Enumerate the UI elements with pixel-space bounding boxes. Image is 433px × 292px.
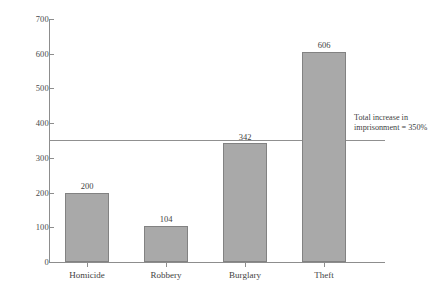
y-tick-mark [49,88,54,89]
y-tick-mark [49,227,54,228]
y-tick-label: 300 [7,154,49,163]
y-tick-label: 0 [7,258,49,267]
y-tick-700: 700 [0,19,49,20]
y-tick-label: 600 [7,50,49,59]
reference-line-annotation: Total increase in imprisonment = 350% [354,113,427,133]
y-tick-500: 500 [0,88,49,89]
bar-value-label: 342 [223,133,267,142]
bar-value-label: 200 [65,182,109,191]
x-tick-mark [324,262,325,267]
y-tick-label: 400 [7,119,49,128]
y-tick-label: 200 [7,189,49,198]
y-tick-label: 700 [7,15,49,24]
bar-burglary[interactable] [223,143,267,262]
y-tick-mark [49,123,54,124]
y-tick-mark [49,193,54,194]
bar-theft[interactable] [302,52,346,262]
y-tick-mark [49,54,54,55]
x-tick-mark [245,262,246,267]
x-tick-mark [166,262,167,267]
bar-value-label: 104 [144,215,188,224]
y-tick-200: 200 [0,193,49,194]
y-tick-100: 100 [0,227,49,228]
x-tick-label-burglary: Burglary [205,270,285,281]
x-axis-line [49,262,385,263]
y-tick-400: 400 [0,123,49,124]
x-tick-label-theft: Theft [284,270,364,281]
y-tick-label: 100 [7,223,49,232]
x-tick-label-robbery: Robbery [126,270,206,281]
y-tick-mark [49,19,54,20]
annotation-line-1: Total increase in [354,113,427,123]
bar-robbery[interactable] [144,226,188,262]
y-tick-600: 600 [0,54,49,55]
x-tick-mark [87,262,88,267]
x-tick-label-homicide: Homicide [47,270,127,281]
bar-value-label: 606 [302,41,346,50]
annotation-line-2: imprisonment = 350% [354,123,427,133]
y-tick-mark [49,262,54,263]
y-tick-mark [49,158,54,159]
y-tick-0: 0 [0,262,49,263]
bar-chart: 700 600 500 400 300 200 100 0 Total incr… [0,0,433,292]
bar-homicide[interactable] [65,193,109,262]
y-tick-label: 500 [7,84,49,93]
y-tick-300: 300 [0,158,49,159]
